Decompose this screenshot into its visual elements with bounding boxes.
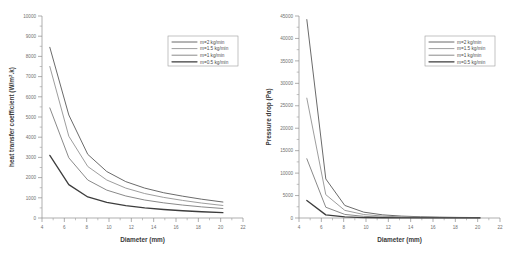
x-tick-label: 6: [320, 225, 323, 230]
y-tick-label: 2000: [26, 175, 37, 180]
y-tick-label: 25000: [280, 103, 293, 108]
y-axis-title-tail: .k): [8, 67, 16, 74]
y-tick-label: 30000: [280, 81, 293, 86]
y-tick-label: 10000: [23, 14, 36, 19]
series-line-3: [50, 155, 223, 212]
x-tick-label: 16: [430, 225, 436, 230]
series-line-2: [50, 108, 223, 209]
series-line-1: [307, 98, 480, 218]
legend-label-1: m=1.5 kg/min: [200, 46, 229, 51]
y-tick-label: 10000: [280, 171, 293, 176]
y-tick-label: 9000: [26, 34, 37, 39]
series-line-0: [50, 47, 223, 202]
y-tick-label: 3000: [26, 155, 37, 160]
y-tick-label: 7000: [26, 74, 37, 79]
x-tick-label: 8: [85, 225, 88, 230]
legend-label-1: m=1.5 kg/min: [457, 46, 486, 51]
x-axis-title: Diameter (mm): [377, 236, 422, 244]
y-tick-label: 5000: [26, 115, 37, 120]
heat-transfer-coefficient-chart: 0100020003000400050006000700080009000100…: [0, 0, 257, 254]
y-tick-label: 0: [33, 216, 36, 221]
x-tick-label: 6: [63, 225, 66, 230]
y-axis-title-main: heat transfer coefficient (W/m: [8, 77, 16, 167]
x-tick-label: 16: [173, 225, 179, 230]
legend-label-0: m=2 kg/min: [457, 40, 482, 45]
y-tick-label: 0: [290, 216, 293, 221]
x-tick-label: 18: [453, 225, 459, 230]
chart-panel-heat-transfer: 0100020003000400050006000700080009000100…: [0, 0, 257, 254]
x-tick-label: 12: [129, 225, 135, 230]
legend-label-3: m=0.5 kg/min: [457, 60, 486, 65]
series-line-1: [50, 67, 223, 206]
x-tick-label: 22: [497, 225, 503, 230]
y-tick-label: 1000: [26, 196, 37, 201]
x-tick-label: 22: [240, 225, 246, 230]
y-tick-label: 8000: [26, 54, 37, 59]
x-tick-label: 14: [408, 225, 414, 230]
legend-label-3: m=0.5 kg/min: [200, 60, 229, 65]
chart-panel-pressure-drop: 0500010000150002000025000300003500040000…: [257, 0, 514, 254]
y-tick-label: 6000: [26, 95, 37, 100]
y-tick-label: 20000: [280, 126, 293, 131]
y-tick-label: 15000: [280, 148, 293, 153]
x-tick-label: 10: [106, 225, 112, 230]
x-tick-label: 20: [475, 225, 481, 230]
legend-label-2: m=1 kg/min: [457, 53, 482, 58]
legend-label-0: m=2 kg/min: [200, 40, 225, 45]
x-axis-title: Diameter (mm): [120, 236, 165, 244]
x-tick-label: 4: [298, 225, 301, 230]
y-tick-label: 35000: [280, 59, 293, 64]
x-tick-label: 14: [151, 225, 157, 230]
y-tick-label: 40000: [280, 36, 293, 41]
x-tick-label: 10: [363, 225, 369, 230]
x-tick-label: 12: [386, 225, 392, 230]
y-tick-label: 4000: [26, 135, 37, 140]
legend-label-2: m=1 kg/min: [200, 53, 225, 58]
y-axis-title: Pressure drop (Pa): [265, 88, 273, 145]
y-axis-title: heat transfer coefficient (W/m2.k): [8, 67, 16, 167]
y-tick-label: 5000: [283, 193, 294, 198]
figure-container: 0100020003000400050006000700080009000100…: [0, 0, 514, 254]
y-tick-label: 45000: [280, 14, 293, 19]
x-tick-label: 18: [196, 225, 202, 230]
x-tick-label: 20: [218, 225, 224, 230]
x-tick-label: 8: [342, 225, 345, 230]
pressure-drop-chart: 0500010000150002000025000300003500040000…: [257, 0, 514, 254]
x-tick-label: 4: [41, 225, 44, 230]
